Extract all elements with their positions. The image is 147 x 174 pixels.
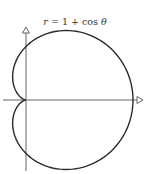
y-axis-arrow-icon	[23, 27, 30, 33]
chart-title: r = 1 + cos θ	[40, 16, 110, 27]
title-theta: θ	[101, 16, 107, 27]
x-axis-arrow-icon	[137, 97, 143, 104]
title-eq: = 1 + cos	[48, 16, 101, 27]
